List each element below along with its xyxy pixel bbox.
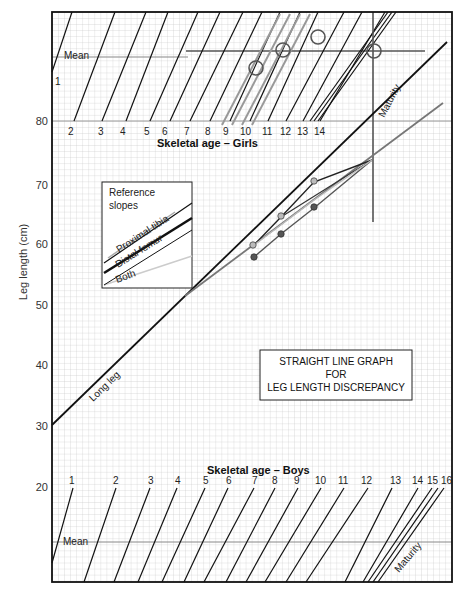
svg-text:1: 1: [55, 76, 61, 87]
svg-text:13: 13: [297, 126, 309, 137]
svg-text:50: 50: [36, 299, 48, 311]
svg-text:1: 1: [69, 475, 75, 486]
svg-text:8: 8: [205, 126, 211, 137]
svg-text:12: 12: [280, 126, 292, 137]
svg-text:3: 3: [148, 475, 154, 486]
svg-text:11: 11: [338, 475, 349, 486]
svg-text:6: 6: [162, 126, 168, 137]
svg-text:5: 5: [203, 475, 209, 486]
y-axis-ticks: 80 70 60 50 40 30 20: [36, 115, 48, 493]
girls-mean-label: Mean: [64, 50, 89, 61]
svg-text:10: 10: [240, 126, 252, 137]
svg-text:30: 30: [36, 420, 48, 432]
svg-text:6: 6: [226, 475, 232, 486]
svg-text:STRAIGHT LINE GRAPH: STRAIGHT LINE GRAPH: [279, 356, 393, 367]
y-axis-label: Leg length (cm): [17, 224, 29, 300]
svg-text:80: 80: [36, 115, 48, 127]
svg-text:Reference: Reference: [109, 187, 156, 198]
svg-text:70: 70: [36, 179, 48, 191]
svg-text:14: 14: [314, 126, 326, 137]
svg-text:4: 4: [175, 475, 181, 486]
svg-text:8: 8: [272, 475, 278, 486]
chart-title-box: STRAIGHT LINE GRAPH FOR LEG LENGTH DISCR…: [260, 350, 412, 400]
svg-text:7: 7: [252, 475, 258, 486]
svg-text:14: 14: [412, 475, 424, 486]
leg-length-chart: Mean Maturity 1 2 3 4 5 6 7 8 9 10 11 12…: [0, 0, 466, 592]
svg-text:2: 2: [68, 126, 74, 137]
svg-text:9: 9: [223, 126, 229, 137]
svg-text:FOR: FOR: [325, 369, 346, 380]
svg-text:40: 40: [36, 359, 48, 371]
boys-mean-label: Mean: [63, 536, 88, 547]
svg-text:2: 2: [113, 475, 119, 486]
svg-text:4: 4: [120, 126, 126, 137]
svg-text:60: 60: [36, 238, 48, 250]
reference-slopes-box: Reference slopes Proximal tibia Distal f…: [102, 182, 192, 288]
svg-text:13: 13: [390, 475, 402, 486]
svg-text:3: 3: [98, 126, 104, 137]
svg-text:15: 15: [427, 475, 439, 486]
svg-text:11: 11: [262, 126, 273, 137]
svg-text:20: 20: [36, 481, 48, 493]
svg-text:7: 7: [184, 126, 190, 137]
girls-axis-label: Skeletal age – Girls: [157, 137, 258, 149]
svg-text:5: 5: [144, 126, 150, 137]
svg-text:12: 12: [361, 475, 373, 486]
svg-text:10: 10: [315, 475, 327, 486]
svg-text:LEG LENGTH DISCREPANCY: LEG LENGTH DISCREPANCY: [267, 382, 405, 393]
svg-text:9: 9: [294, 475, 300, 486]
svg-text:slopes: slopes: [109, 200, 138, 211]
svg-text:16: 16: [441, 475, 453, 486]
